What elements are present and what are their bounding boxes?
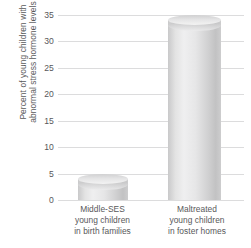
x-label-1-line-1: Middle-SES bbox=[56, 204, 149, 215]
x-label-1-line-3: in birth families bbox=[56, 226, 149, 237]
bar-top-ellipse bbox=[78, 174, 128, 184]
y-axis-tick-label: 30 bbox=[44, 36, 54, 46]
gridline bbox=[58, 15, 244, 16]
x-label-2-line-1: Maltreated bbox=[147, 204, 247, 215]
bar-2 bbox=[168, 20, 221, 200]
bar-chart: Percent of young children with abnormal … bbox=[0, 0, 251, 248]
gridline bbox=[58, 200, 244, 201]
x-label-2-line-3: in foster homes bbox=[147, 226, 247, 237]
y-axis-tick-label: 35 bbox=[44, 10, 54, 20]
y-axis-tick-label: 5 bbox=[49, 169, 54, 179]
y-axis-title-line-1: Percent of young children with bbox=[18, 4, 28, 119]
x-label-2-line-2: young children bbox=[147, 215, 247, 226]
y-axis-title: Percent of young children with abnormal … bbox=[11, 0, 45, 152]
plot-area: 05101520253035 bbox=[58, 15, 244, 200]
x-label-1-line-2: young children bbox=[56, 215, 149, 226]
y-axis-tick-label: 20 bbox=[44, 89, 54, 99]
y-axis-tick-label: 15 bbox=[44, 116, 54, 126]
x-axis-label-middle-ses: Middle-SES young children in birth famil… bbox=[56, 204, 149, 236]
y-axis-tick-label: 25 bbox=[44, 63, 54, 73]
y-axis-tick-label: 0 bbox=[49, 195, 54, 205]
y-axis-tick-label: 10 bbox=[44, 142, 54, 152]
bar-1 bbox=[78, 179, 128, 200]
y-axis-title-line-2: abnormal stress hormone levels bbox=[28, 1, 38, 123]
x-axis-label-maltreated: Maltreated young children in foster home… bbox=[147, 204, 247, 236]
